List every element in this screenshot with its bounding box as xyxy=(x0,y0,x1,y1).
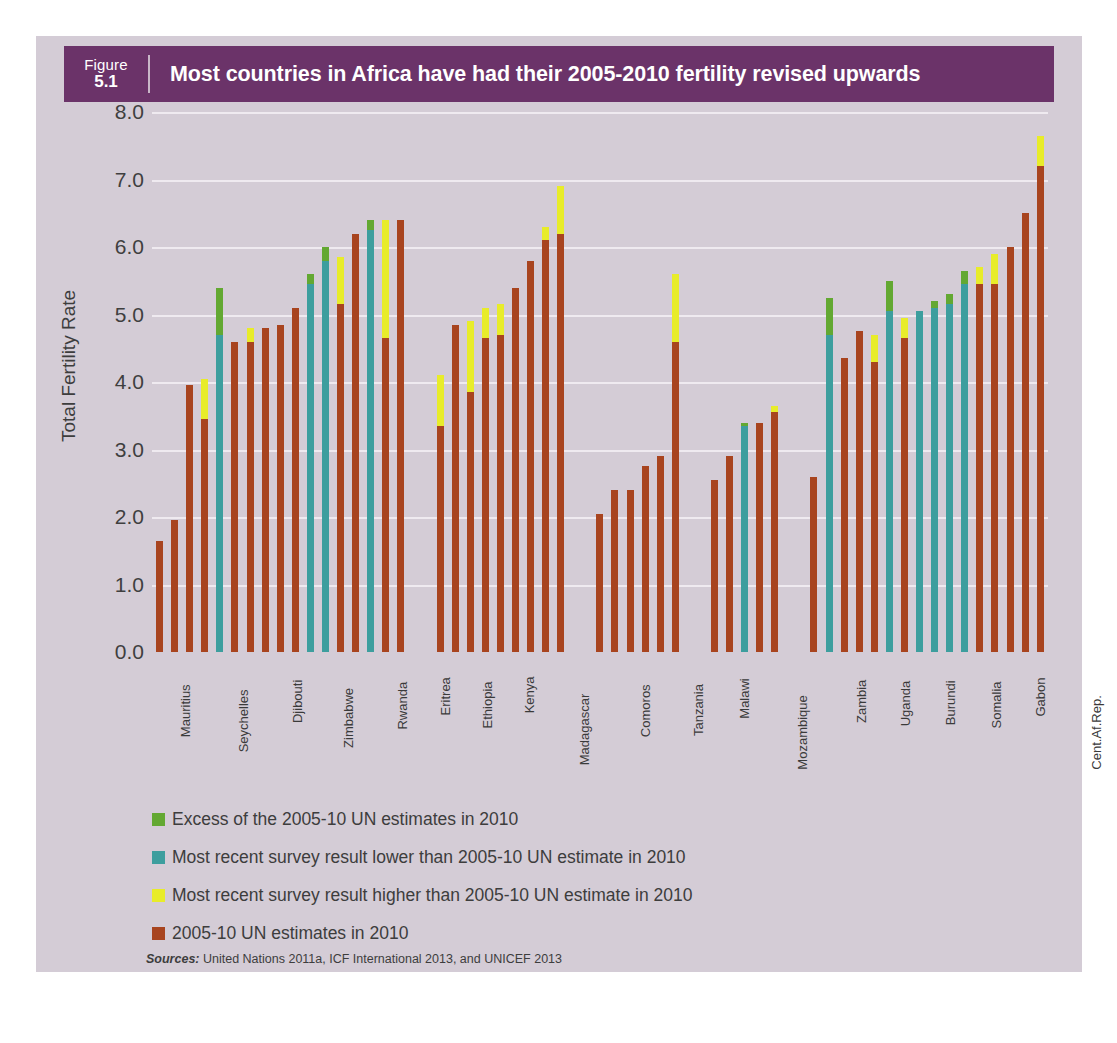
bar-cent-af-rep[interactable] xyxy=(448,112,463,652)
bar-segment-brown xyxy=(262,328,269,652)
bar-ghana[interactable] xyxy=(837,112,852,652)
bar-libya[interactable] xyxy=(638,112,653,652)
bar-zambia[interactable] xyxy=(348,112,363,652)
bar-madagascar[interactable] xyxy=(273,112,288,652)
bar-sudan[interactable] xyxy=(668,112,683,652)
bar-segment-yellow xyxy=(1037,136,1044,166)
x-label-slot: Burundi xyxy=(921,656,966,786)
bar-stack xyxy=(542,227,549,652)
bar-eq-guinea[interactable] xyxy=(508,112,523,652)
legend-higher[interactable]: Most recent survey result higher than 20… xyxy=(152,876,1032,914)
bar-ethiopia[interactable] xyxy=(242,112,257,652)
bar-cameroon[interactable] xyxy=(493,112,508,652)
legend-swatch-icon xyxy=(152,851,165,864)
bar-benin[interactable] xyxy=(882,112,897,652)
bar-stack xyxy=(367,220,374,652)
bar-chad[interactable] xyxy=(553,112,568,652)
legend-un-estimate[interactable]: 2005-10 UN estimates in 2010 xyxy=(152,914,1032,952)
bar-segment-brown xyxy=(1007,247,1014,652)
bar-uganda[interactable] xyxy=(363,112,378,652)
bar-south-africa[interactable] xyxy=(707,112,722,652)
bar-egypt[interactable] xyxy=(653,112,668,652)
legend-lower[interactable]: Most recent survey result lower than 200… xyxy=(152,838,1032,876)
bar-d-r-congo[interactable] xyxy=(538,112,553,652)
bar-tunisia[interactable] xyxy=(592,112,607,652)
bar-niger[interactable] xyxy=(1033,112,1048,652)
bar-segment-yellow xyxy=(337,257,344,304)
x-label-slot: Zambia xyxy=(832,656,875,786)
bar-stack xyxy=(946,294,953,652)
bar-segment-brown xyxy=(292,308,299,652)
bar-gabon[interactable] xyxy=(432,112,447,652)
bar-burundi[interactable] xyxy=(378,112,393,652)
bar-algeria[interactable] xyxy=(622,112,637,652)
y-tick-0: 0.0 xyxy=(82,640,144,664)
bar-burkina[interactable] xyxy=(1002,112,1017,652)
bar-gambia-the[interactable] xyxy=(927,112,942,652)
bar-nigeria[interactable] xyxy=(972,112,987,652)
bar-mali[interactable] xyxy=(1018,112,1033,652)
bar-stack xyxy=(1037,136,1044,652)
bar-stack xyxy=(976,267,983,652)
bar-zimbabwe[interactable] xyxy=(197,112,212,652)
bar-stack xyxy=(497,304,504,652)
bar-stack xyxy=(1007,247,1014,652)
bar-angola[interactable] xyxy=(523,112,538,652)
figure-number-block: Figure 5.1 xyxy=(64,57,148,91)
bar-congo[interactable] xyxy=(478,112,493,652)
bar-seychelles[interactable] xyxy=(167,112,182,652)
bar-liberia[interactable] xyxy=(987,112,1002,652)
bar-stack xyxy=(527,261,534,653)
bar-botswana[interactable] xyxy=(722,112,737,652)
legend-label: Most recent survey result lower than 200… xyxy=(172,847,686,868)
bar-comoros[interactable] xyxy=(288,112,303,652)
bar-somalia[interactable] xyxy=(393,112,408,652)
bar-segment-yellow xyxy=(901,318,908,338)
bar-sierra-leone[interactable] xyxy=(822,112,837,652)
bar-g-bissau[interactable] xyxy=(942,112,957,652)
bar-c-te-d-ivoire[interactable] xyxy=(897,112,912,652)
bar-morocco[interactable] xyxy=(607,112,622,652)
bar-kenya[interactable] xyxy=(258,112,273,652)
bar-segment-brown xyxy=(871,362,878,652)
bar-stack xyxy=(856,331,863,652)
bar-mozambique[interactable] xyxy=(333,112,348,652)
bar-togo[interactable] xyxy=(867,112,882,652)
bar-rwanda[interactable] xyxy=(212,112,227,652)
bar-swaziland[interactable] xyxy=(767,112,782,652)
bar-stack xyxy=(1022,213,1029,652)
bar-stack xyxy=(262,328,269,652)
bar-stack xyxy=(931,301,938,652)
bar-series xyxy=(152,112,1048,652)
legend-swatch-icon xyxy=(152,889,165,902)
bar-lesotho[interactable] xyxy=(737,112,752,652)
bar-sao-t-p[interactable] xyxy=(463,112,478,652)
bar-mauritania[interactable] xyxy=(852,112,867,652)
bar-segment-brown xyxy=(397,220,404,652)
bar-segment-teal xyxy=(961,284,968,652)
y-tick-3: 3.0 xyxy=(82,438,144,462)
bar-segment-green xyxy=(886,281,893,311)
bar-mauritius[interactable] xyxy=(152,112,167,652)
x-label-slot: Eritrea xyxy=(419,656,457,786)
bar-eritrea[interactable] xyxy=(227,112,242,652)
legend-label: 2005-10 UN estimates in 2010 xyxy=(172,923,408,944)
bar-guinea[interactable] xyxy=(957,112,972,652)
bar-segment-green xyxy=(946,294,953,304)
bar-segment-brown xyxy=(1022,213,1029,652)
bar-segment-yellow xyxy=(871,335,878,362)
bar-segment-yellow xyxy=(482,308,489,338)
bar-namibia[interactable] xyxy=(752,112,767,652)
bar-senegal[interactable] xyxy=(912,112,927,652)
bar-djibouti[interactable] xyxy=(182,112,197,652)
figure-title: Most countries in Africa have had their … xyxy=(170,62,920,87)
figure-label-word: Figure xyxy=(64,57,148,73)
bar-segment-green xyxy=(961,271,968,285)
bar-stack xyxy=(756,423,763,653)
bar-malawi[interactable] xyxy=(318,112,333,652)
bar-tanzania[interactable] xyxy=(303,112,318,652)
bar-segment-brown xyxy=(1037,166,1044,652)
bar-cape-verde[interactable] xyxy=(806,112,821,652)
bar-segment-yellow xyxy=(497,304,504,334)
legend-excess[interactable]: Excess of the 2005-10 UN estimates in 20… xyxy=(152,800,1032,838)
